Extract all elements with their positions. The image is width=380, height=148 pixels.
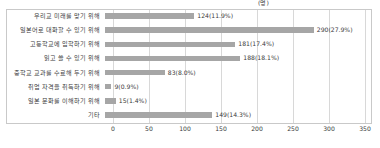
bar xyxy=(105,56,240,61)
bar-value-label: 149(14.3%) xyxy=(212,112,251,118)
bar-value-label: 15(1.4%) xyxy=(116,98,147,104)
bar-chart: 우리교 미래를 맞기 위해124(11.9%)일본어로 대화할 수 있기 위해2… xyxy=(0,0,380,148)
bar xyxy=(105,112,212,117)
x-tick-label: 200 xyxy=(251,126,263,132)
bar-row: 고등학교에 입학하기 위해181(17.4%) xyxy=(0,37,380,51)
bar-value-label: 83(8.0%) xyxy=(165,70,196,76)
bar-container: 181(17.4%) xyxy=(105,37,380,51)
category-label: 읽고 쓸 수 있기 위해 xyxy=(0,55,105,61)
category-label: 기타 xyxy=(0,112,105,118)
bar xyxy=(105,42,235,47)
x-tick-label: 50 xyxy=(145,126,153,132)
bar-container: 9(0.9%) xyxy=(105,80,380,94)
x-tick-label: 250 xyxy=(287,126,299,132)
x-axis-unit-label: (명) xyxy=(258,0,269,6)
bar-value-label: 124(11.9%) xyxy=(194,13,233,19)
bar-rows: 우리교 미래를 맞기 위해124(11.9%)일본어로 대화할 수 있기 위해2… xyxy=(0,9,380,124)
bar-container: 188(18.1%) xyxy=(105,51,380,65)
bar xyxy=(105,27,314,32)
category-label: 일본 문화를 이해하기 위해 xyxy=(0,98,105,104)
bar-row: 기타149(14.3%) xyxy=(0,108,380,122)
bar-value-label: 290(27.9%) xyxy=(314,27,353,33)
bar xyxy=(105,98,116,103)
category-label: 고등학교에 입학하기 위해 xyxy=(0,41,105,47)
bar-row: 우리교 미래를 맞기 위해124(11.9%) xyxy=(0,9,380,23)
category-label: 일본어로 대화할 수 있기 위해 xyxy=(0,27,105,33)
x-tick-label: 100 xyxy=(179,126,191,132)
bar-container: 83(8.0%) xyxy=(105,66,380,80)
category-label: 취업 자격을 취득하기 위해 xyxy=(0,84,105,90)
bar-container: 149(14.3%) xyxy=(105,108,380,122)
bar-row: 읽고 쓸 수 있기 위해188(18.1%) xyxy=(0,51,380,65)
bar-container: 124(11.9%) xyxy=(105,9,380,23)
x-tick-label: 0 xyxy=(111,126,115,132)
category-label: 중학교 교과를 수료해 두기 위해 xyxy=(0,70,105,76)
bar-value-label: 188(18.1%) xyxy=(240,55,279,61)
x-tick-label: 350 xyxy=(359,126,371,132)
bar xyxy=(105,70,165,75)
x-tick-label: 300 xyxy=(323,126,335,132)
x-axis: 050100150200250300350 xyxy=(113,126,365,138)
bar-row: 일본 문화를 이해하기 위해15(1.4%) xyxy=(0,94,380,108)
bar-value-label: 181(17.4%) xyxy=(235,41,274,47)
bar-container: 15(1.4%) xyxy=(105,94,380,108)
bar-row: 일본어로 대화할 수 있기 위해290(27.9%) xyxy=(0,23,380,37)
x-tick-label: 150 xyxy=(215,126,227,132)
bar-container: 290(27.9%) xyxy=(105,23,380,37)
bar-value-label: 9(0.9%) xyxy=(111,84,138,90)
bar xyxy=(105,13,194,18)
bar-row: 중학교 교과를 수료해 두기 위해83(8.0%) xyxy=(0,66,380,80)
bar-row: 취업 자격을 취득하기 위해9(0.9%) xyxy=(0,80,380,94)
category-label: 우리교 미래를 맞기 위해 xyxy=(0,13,105,19)
